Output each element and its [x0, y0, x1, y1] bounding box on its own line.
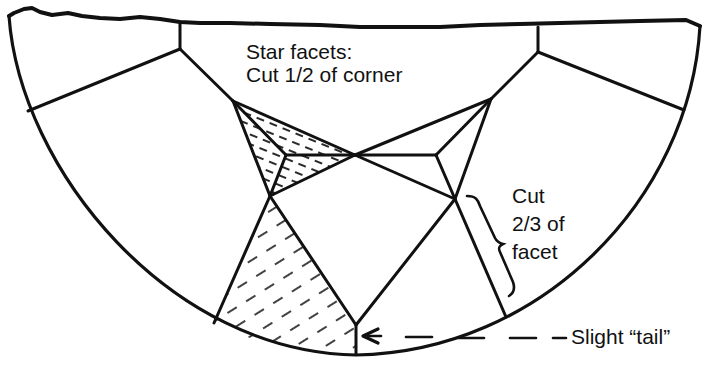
- cut-two-thirds-label: Cut 2/3 of facet: [512, 182, 565, 266]
- tail-label: Slight “tail”: [571, 325, 670, 348]
- cut-two-thirds-line3: facet: [512, 238, 565, 266]
- star-facets-label: Star facets: Cut 1/2 of corner: [246, 40, 402, 86]
- tail-label-text: Slight “tail”: [571, 325, 670, 348]
- cut-two-thirds-line2: 2/3 of: [512, 210, 565, 238]
- star-facets-label-line2: Cut 1/2 of corner: [246, 63, 402, 86]
- star-facets-label-line1: Star facets:: [246, 40, 402, 63]
- cut-two-thirds-line1: Cut: [512, 182, 565, 210]
